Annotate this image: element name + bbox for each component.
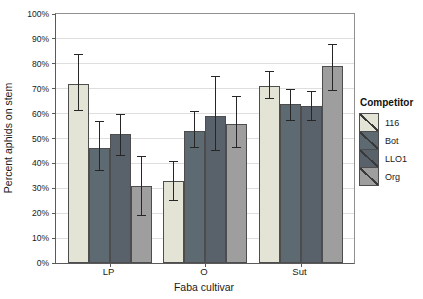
y-axis-tick-label: 20% [7,208,49,218]
bar-column-Bot-Sut [280,14,301,263]
error-cap-top-116-Sut [265,71,274,72]
error-cap-top-LLO1-O [211,76,220,77]
error-cap-top-Bot-LP [95,121,104,122]
y-axis-tick-label: 70% [7,84,49,94]
error-cap-bottom-Bot-O [190,147,199,148]
error-cap-top-LLO1-Sut [307,91,316,92]
y-axis-tick [52,88,56,89]
y-axis-tick [52,63,56,64]
y-axis-tick-label: 90% [7,34,49,44]
bar-column-Bot-LP [89,14,110,263]
bar-column-116-O [163,14,184,263]
bar-Org-Sut [322,66,343,263]
error-cap-bottom-LLO1-O [211,150,220,151]
legend-item-Bot: Bot [359,131,413,150]
y-axis-tick [52,138,56,139]
error-bar-116-Sut [269,71,270,98]
bar-column-Bot-O [184,14,205,263]
x-category-label-Sut: Sut [292,266,306,277]
y-axis-tick-label: 100% [7,9,49,19]
legend-swatch-Bot [359,131,379,150]
error-bar-LLO1-LP [120,114,121,156]
bar-group-Sut [259,14,343,263]
legend-label-Bot: Bot [385,136,399,146]
error-bar-LLO1-O [215,76,216,151]
y-axis-tick-label: 0% [7,258,49,268]
error-cap-bottom-Org-O [232,147,241,148]
y-axis-tick-label: 30% [7,183,49,193]
legend-swatch-116 [359,113,379,132]
error-bar-Org-Sut [332,44,333,91]
y-axis-tick-label: 40% [7,158,49,168]
bar-chart-figure: Percent aphids on stem 0%10%20%30%40%50%… [0,0,423,299]
legend-item-116: 116 [359,113,413,132]
error-bar-Org-O [236,96,237,148]
bar-Bot-Sut [280,104,301,263]
legend-label-Org: Org [385,172,400,182]
error-cap-bottom-LLO1-LP [116,155,125,156]
error-cap-top-116-O [169,161,178,162]
error-bar-Org-LP [141,156,142,216]
error-cap-bottom-Bot-LP [95,170,104,171]
error-cap-bottom-Org-Sut [328,90,337,91]
error-cap-top-Org-LP [137,156,146,157]
y-axis-tick [52,163,56,164]
x-category-label-O: O [200,266,207,277]
error-cap-top-Bot-O [190,111,199,112]
y-axis-tick [52,213,56,214]
bar-LLO1-Sut [301,106,322,263]
error-cap-top-Org-O [232,96,241,97]
x-category-label-LP: LP [103,266,115,277]
x-axis-title: Faba cultivar [55,281,353,293]
error-cap-top-Org-Sut [328,44,337,45]
legend-items: 116BotLLO1Org [359,113,413,186]
error-cap-bottom-116-O [169,200,178,201]
legend-swatch-Org [359,167,379,186]
bar-column-LLO1-O [205,14,226,263]
y-axis-tick [52,238,56,239]
bar-column-Org-Sut [322,14,343,263]
error-bar-116-LP [78,54,79,111]
legend-label-LLO1: LLO1 [385,154,407,164]
plot-area: 0%10%20%30%40%50%60%70%80%90%100% [55,13,355,264]
error-bar-Bot-Sut [290,89,291,121]
legend-label-116: 116 [385,118,399,128]
y-axis-tick [52,14,56,15]
error-bar-Bot-LP [99,121,100,171]
y-axis-tick-label: 10% [7,233,49,243]
bar-column-LLO1-LP [110,14,131,263]
bar-column-116-Sut [259,14,280,263]
error-cap-top-Bot-Sut [286,89,295,90]
error-cap-top-LLO1-LP [116,114,125,115]
error-cap-bottom-116-LP [74,110,83,111]
y-axis-tick-label: 60% [7,109,49,119]
bar-column-116-LP [68,14,89,263]
error-cap-bottom-Bot-Sut [286,120,295,121]
bar-116-Sut [259,86,280,263]
y-axis-tick [52,188,56,189]
y-axis-tick [52,113,56,114]
error-cap-bottom-Org-LP [137,215,146,216]
error-bar-LLO1-Sut [311,91,312,121]
legend-title: Competitor [360,97,413,108]
bar-column-LLO1-Sut [301,14,322,263]
y-axis-tick-label: 50% [7,134,49,144]
y-axis-tick [52,38,56,39]
error-bar-Bot-O [194,111,195,148]
error-cap-bottom-116-Sut [265,98,274,99]
legend-item-LLO1: LLO1 [359,149,413,168]
bar-group-O [163,14,247,263]
error-cap-bottom-LLO1-Sut [307,120,316,121]
error-cap-top-116-LP [74,54,83,55]
y-axis-tick [52,263,56,264]
bar-column-Org-LP [131,14,152,263]
legend: Competitor 116BotLLO1Org [359,97,413,186]
bar-column-Org-O [226,14,247,263]
bar-Bot-O [184,131,205,263]
legend-swatch-LLO1 [359,149,379,168]
bar-group-LP [68,14,152,263]
y-axis-tick-label: 80% [7,59,49,69]
error-bar-116-O [173,161,174,201]
legend-item-Org: Org [359,167,413,186]
